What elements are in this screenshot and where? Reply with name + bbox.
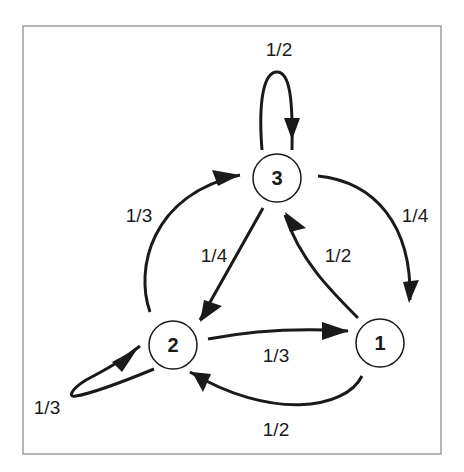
edge-label-1-3: 1/2 [325,245,351,266]
arrowhead-icon [200,300,222,322]
edge-1-to-2: 1/2 [190,372,362,440]
edge-2-to-2: 1/3 [34,346,154,418]
edge-label-2-2: 1/3 [34,397,60,418]
arrowhead-icon [112,348,138,372]
arrowhead-icon [284,118,300,140]
edge-label-3-1: 1/4 [402,205,429,226]
arrowhead-icon [322,322,349,340]
node-3-label: 3 [271,167,282,189]
edge-label-1-2: 1/2 [263,419,289,440]
edge-label-2-1: 1/3 [263,345,289,366]
edge-1-to-3: 1/2 [285,212,358,318]
edge-label-2-3: 1/3 [126,205,152,226]
edge-3-to-2: 1/4 [200,208,263,322]
edge-label-3-3: 1/2 [266,39,292,60]
arrowhead-icon [285,212,306,232]
edge-2-to-3: 1/3 [126,170,240,312]
node-2-label: 2 [167,334,178,356]
edge-2-to-1: 1/3 [208,322,349,366]
node-2: 2 [149,321,197,369]
node-1-label: 1 [374,332,385,354]
edge-3-to-3: 1/2 [261,39,300,150]
node-3: 3 [253,154,301,202]
node-1: 1 [356,319,404,367]
edge-3-to-1: 1/4 [318,176,429,303]
diagram-frame [23,26,441,454]
markov-diagram: 1/2 1/4 1/4 1/3 1/2 1/3 1/2 1/3 [0,0,464,472]
edge-label-3-2: 1/4 [201,245,228,266]
